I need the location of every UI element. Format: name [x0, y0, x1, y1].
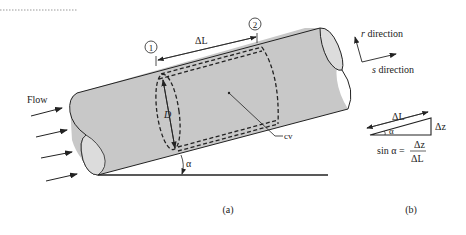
svg-text:s direction: s direction [372, 64, 414, 75]
direction-axes: r direction s direction [355, 28, 414, 75]
flow-label: Flow [27, 94, 48, 105]
svg-text:sin α =: sin α = [377, 145, 405, 156]
r-axis-arrow [355, 37, 362, 62]
diameter-label: D [163, 109, 172, 120]
angle-label: α [186, 158, 192, 169]
s-axis-arrow [362, 54, 396, 62]
flow-arrow-2 [36, 130, 67, 137]
section-2-marker: 2 [249, 18, 261, 43]
length-label: ΔL [195, 35, 208, 46]
svg-text:r direction: r direction [361, 28, 403, 39]
flow-arrow-1 [31, 108, 62, 116]
svg-text:2: 2 [253, 20, 258, 30]
svg-text:1: 1 [149, 43, 154, 53]
triangle-angle-label: α [389, 126, 394, 136]
flow-arrows [31, 108, 77, 181]
hypotenuse-label: ΔL [392, 111, 405, 122]
pipe [70, 28, 351, 175]
flow-arrow-3 [41, 152, 72, 158]
sine-formula: sin α = Δz ΔL [377, 139, 426, 164]
height-label: Δz [435, 121, 446, 132]
section-1-marker: 1 [145, 41, 157, 66]
caption-b: (b) [405, 204, 417, 216]
pipe-flow-diagram: D 1 2 ΔL cv α Flow r direction s directi… [0, 0, 466, 235]
flow-arrow-4 [46, 174, 77, 181]
angle-arc [181, 155, 183, 174]
cv-label: cv [284, 131, 293, 141]
svg-text:ΔL: ΔL [411, 153, 424, 164]
caption-a: (a) [222, 204, 233, 216]
svg-text:Δz: Δz [414, 139, 425, 150]
slope-triangle: ΔL α Δz [367, 111, 446, 136]
